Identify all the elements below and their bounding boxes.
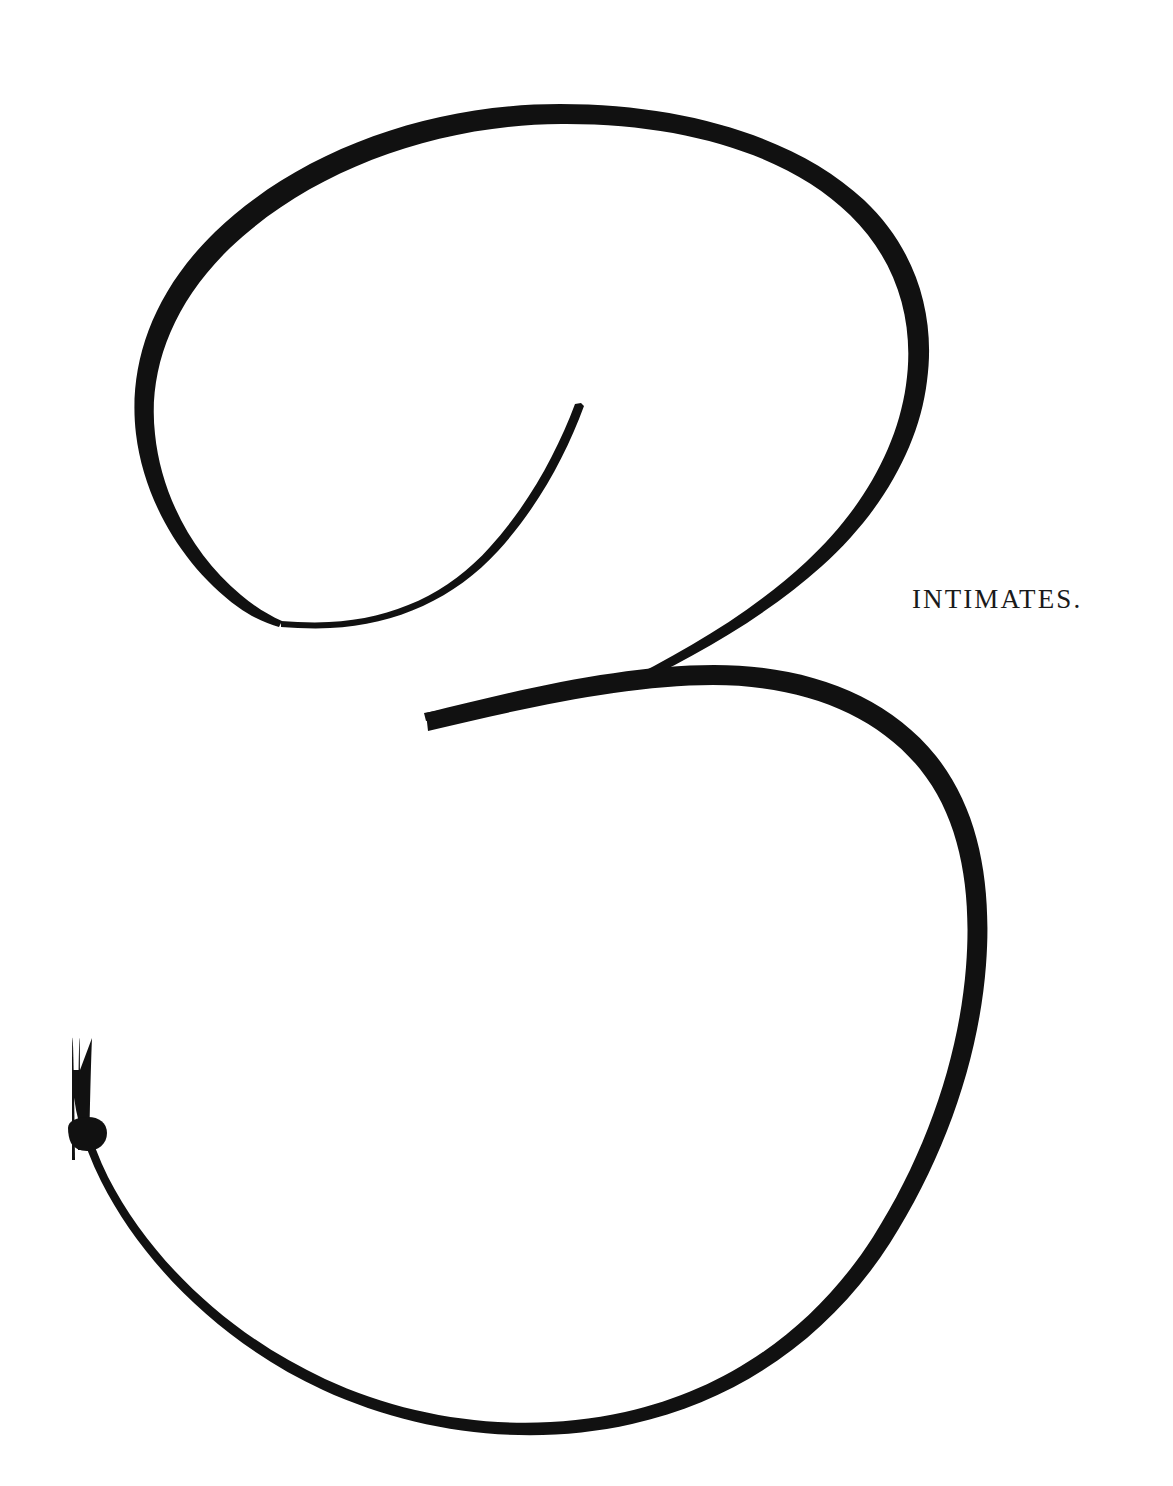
- ornamental-numeral-three: [0, 0, 1173, 1486]
- upper-bowl-stroke: [134, 104, 929, 692]
- section-label: INTIMATES.: [912, 586, 1082, 613]
- inner-flourish-stroke: [281, 403, 584, 628]
- lower-bowl-stroke: [72, 665, 987, 1435]
- ball-terminal: [68, 1117, 107, 1151]
- plate-page: INTIMATES.: [0, 0, 1173, 1486]
